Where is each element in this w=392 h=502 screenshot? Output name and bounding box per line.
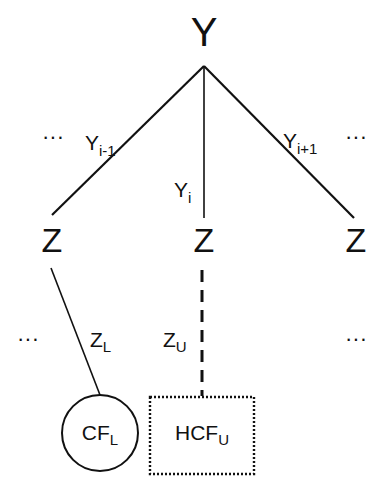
leaf-circle-label: CFL bbox=[82, 421, 118, 448]
edge-label-left: Yi-1 bbox=[85, 131, 116, 159]
edge-label-middle: Yi bbox=[174, 178, 191, 206]
root-node-label: Y bbox=[191, 10, 218, 54]
edge-label-zl: ZL bbox=[90, 328, 111, 355]
leaf-rectangle-label: HCFU bbox=[175, 421, 229, 448]
child-node-left: Z bbox=[42, 221, 63, 259]
ellipsis-lower-right: ··· bbox=[345, 326, 367, 351]
child-node-right: Z bbox=[346, 221, 367, 259]
child-node-middle: Z bbox=[194, 221, 215, 259]
edge-label-zu: ZU bbox=[163, 328, 187, 355]
ellipsis-upper-right: ··· bbox=[345, 124, 367, 149]
edge-right bbox=[204, 66, 354, 218]
ellipsis-upper-left: ··· bbox=[42, 124, 64, 149]
tree-diagram: Y Yi-1 Yi Yi+1 ··· ··· Z Z Z ZL ZU ··· ·… bbox=[0, 0, 392, 502]
ellipsis-lower-left: ··· bbox=[17, 326, 39, 351]
